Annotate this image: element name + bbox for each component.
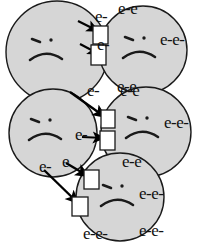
- electron-label: e-e-: [160, 30, 185, 49]
- electron-label: e-: [87, 81, 100, 100]
- diagram-svg: e- e- e- e-e e-e- e-e e- e- e e-e e-e- e…: [0, 0, 203, 245]
- receptor-box-bottom-lower[interactable]: [72, 197, 88, 216]
- top-right-particle[interactable]: [99, 6, 187, 94]
- electron-label: e-e: [120, 81, 139, 100]
- electron-label: e-e-: [139, 221, 164, 240]
- electron-label: e-e-: [139, 184, 164, 203]
- electron-label: e-e-: [83, 224, 108, 243]
- electron-label: e-: [39, 157, 52, 176]
- electron-label: e-: [97, 35, 110, 54]
- electron-label: e: [62, 152, 69, 171]
- receptor-box-middle-right-upper[interactable]: [101, 110, 115, 128]
- electron-label: e-: [75, 125, 88, 144]
- diagram-canvas: e- e- e- e-e e-e- e-e e- e- e e-e e-e- e…: [0, 0, 203, 245]
- electron-label: e-e-: [164, 113, 189, 132]
- receptor-box-middle-right-lower[interactable]: [100, 131, 115, 150]
- electron-label: e-e: [118, 0, 137, 18]
- electron-label: e-: [95, 7, 108, 26]
- receptor-box-bottom-upper[interactable]: [84, 170, 99, 189]
- electron-label: e-e: [122, 152, 141, 171]
